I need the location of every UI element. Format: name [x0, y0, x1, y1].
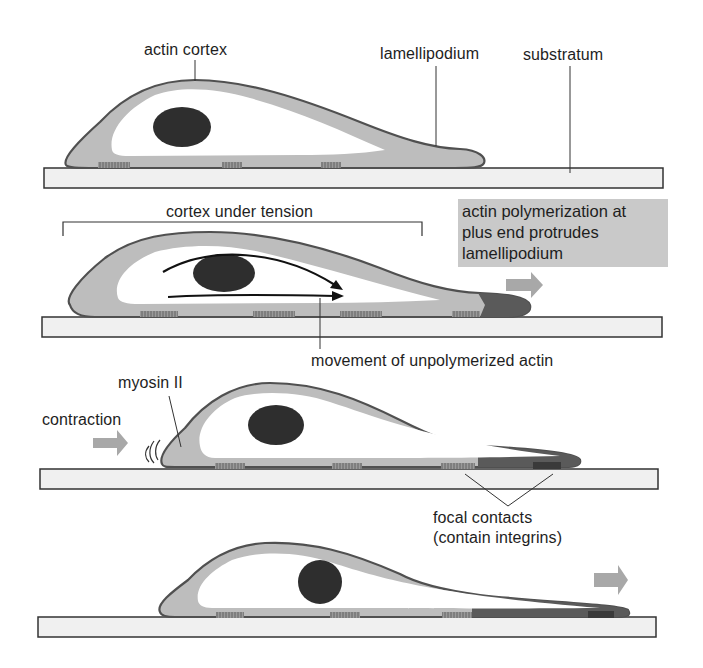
protrusion-arrow-4: [594, 565, 628, 595]
callout-line-2: plus end protrudes: [462, 222, 599, 242]
actin-cortex-label: actin cortex: [144, 40, 227, 59]
contraction-wave-1: [146, 446, 149, 462]
focal-contact-4c: [442, 612, 472, 618]
nucleus-4: [298, 560, 342, 604]
focal-contact-4b: [330, 612, 360, 618]
myosin-ii-label: myosin II: [118, 373, 183, 392]
contraction-arrow: [93, 430, 128, 456]
contraction-wave-2: [150, 441, 154, 463]
callout-line-3: lamellipodium: [462, 243, 563, 263]
contraction-wave-3: [156, 440, 160, 460]
protrusion-arrow-2: [506, 272, 543, 298]
focal-contact-2c: [340, 311, 382, 317]
substratum-3: [40, 469, 658, 489]
nucleus-3: [248, 405, 304, 445]
focal-contact-4a: [216, 612, 244, 618]
cell-crawling-diagram: [0, 0, 703, 668]
contraction-label: contraction: [42, 410, 121, 429]
panel-4: [38, 543, 656, 637]
focal-contact-2d: [452, 311, 480, 317]
focal-contact-2b: [253, 311, 295, 317]
substratum-4: [38, 617, 656, 637]
cortex-under-tension-label: cortex under tension: [166, 202, 313, 221]
focal-contact-3d: [533, 462, 561, 469]
focal-contact-1b: [222, 162, 242, 168]
focal-contact-4d: [588, 611, 614, 618]
panel-3: [40, 383, 658, 506]
panel-1: [44, 60, 663, 188]
focal-contact-3b: [332, 463, 362, 469]
contain-integrins-label: (contain integrins): [433, 528, 562, 547]
nucleus-1: [153, 107, 211, 147]
nucleus-2: [193, 254, 255, 292]
focal-contact-3c: [441, 463, 475, 469]
substratum-label: substratum: [523, 45, 603, 64]
focal-contacts-label: focal contacts: [433, 508, 532, 527]
callout-line-1: actin polymerization at: [462, 201, 626, 221]
substratum-2: [42, 317, 662, 337]
lamellipodium-label: lamellipodium: [380, 44, 479, 63]
new-actin-2: [478, 293, 530, 317]
movement-of-unpolymerized-actin-label: movement of unpolymerized actin: [311, 351, 553, 370]
focal-contact-2a: [140, 311, 178, 317]
focal-contact-1a: [98, 162, 130, 168]
actin-polymerization-callout: actin polymerization at plus end protrud…: [458, 199, 668, 267]
focal-contact-3a: [215, 463, 245, 469]
focal-contact-1c: [321, 162, 341, 168]
